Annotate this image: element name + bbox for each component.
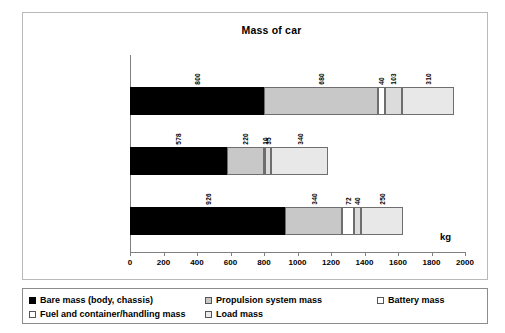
x-axis-unit-label: kg bbox=[440, 231, 451, 242]
x-tick-label: 2000 bbox=[456, 258, 474, 267]
bar-segment-fuel bbox=[385, 87, 402, 115]
x-tick bbox=[398, 252, 399, 256]
chart-screenshot: Mass of car 0200400600800100012001400160… bbox=[0, 0, 505, 333]
plot-area: 0200400600800100012001400160018002000 Da… bbox=[130, 55, 465, 252]
bar-segment-load bbox=[271, 147, 328, 175]
x-tick-label: 1400 bbox=[356, 258, 374, 267]
legend-item-fuel: Fuel and container/handling mass bbox=[29, 309, 205, 319]
data-label: 310 bbox=[425, 73, 432, 85]
bar-segment-load bbox=[402, 87, 454, 115]
data-label: 680 bbox=[318, 73, 325, 85]
data-label: 800 bbox=[194, 73, 201, 85]
chart-title: Mass of car bbox=[0, 24, 505, 36]
legend-swatch-fuel-icon bbox=[29, 311, 36, 318]
bar-segment-bare bbox=[130, 207, 285, 235]
data-label: 926 bbox=[205, 193, 212, 205]
legend-item-bare: Bare mass (body, chassis) bbox=[29, 295, 205, 305]
legend-swatch-load-icon bbox=[205, 311, 212, 318]
chart-legend: Bare mass (body, chassis) Propulsion sys… bbox=[22, 288, 488, 324]
x-tick bbox=[331, 252, 332, 256]
data-label: 35 bbox=[265, 137, 272, 145]
legend-label-prop: Propulsion system mass bbox=[216, 295, 322, 305]
x-tick bbox=[298, 252, 299, 256]
x-tick bbox=[231, 252, 232, 256]
bar-segment-bare bbox=[130, 87, 264, 115]
data-label: 72 bbox=[345, 197, 352, 205]
x-tick-label: 600 bbox=[224, 258, 237, 267]
legend-label-batt: Battery mass bbox=[388, 295, 445, 305]
bar-segment-prop bbox=[227, 147, 264, 175]
data-label: 340 bbox=[311, 193, 318, 205]
x-tick-label: 1200 bbox=[322, 258, 340, 267]
legend-label-fuel: Fuel and container/handling mass bbox=[40, 309, 186, 319]
x-tick-label: 1600 bbox=[389, 258, 407, 267]
data-label: 340 bbox=[297, 133, 304, 145]
bar-segment-prop bbox=[285, 207, 342, 235]
data-label: 103 bbox=[390, 73, 397, 85]
x-tick-label: 400 bbox=[190, 258, 203, 267]
bar-segment-batt bbox=[342, 207, 354, 235]
legend-swatch-prop-icon bbox=[205, 297, 212, 304]
x-tick-label: 0 bbox=[128, 258, 132, 267]
legend-label-bare: Bare mass (body, chassis) bbox=[40, 295, 153, 305]
legend-swatch-bare-icon bbox=[29, 297, 36, 304]
bar-segment-fuel bbox=[354, 207, 361, 235]
x-tick bbox=[264, 252, 265, 256]
legend-row-1: Bare mass (body, chassis) Propulsion sys… bbox=[29, 293, 481, 307]
legend-row-2: Fuel and container/handling mass Load ma… bbox=[29, 307, 481, 321]
data-label: 250 bbox=[379, 193, 386, 205]
data-label: 578 bbox=[175, 133, 182, 145]
x-tick bbox=[365, 252, 366, 256]
bar-segment-prop bbox=[264, 87, 378, 115]
data-label: 40 bbox=[354, 197, 361, 205]
legend-item-batt: Battery mass bbox=[377, 295, 445, 305]
data-label: 40 bbox=[378, 77, 385, 85]
x-tick-label: 1800 bbox=[423, 258, 441, 267]
legend-item-prop: Propulsion system mass bbox=[205, 295, 377, 305]
legend-item-load: Load mass bbox=[205, 309, 263, 319]
x-tick-label: 200 bbox=[157, 258, 170, 267]
legend-swatch-batt-icon bbox=[377, 297, 384, 304]
legend-label-load: Load mass bbox=[216, 309, 263, 319]
bar-segment-load bbox=[361, 207, 403, 235]
x-tick-label: 800 bbox=[257, 258, 270, 267]
x-tick-label: 1000 bbox=[289, 258, 307, 267]
bar-segment-batt bbox=[378, 87, 385, 115]
x-tick bbox=[164, 252, 165, 256]
x-tick bbox=[130, 252, 131, 256]
x-tick bbox=[465, 252, 466, 256]
x-tick bbox=[197, 252, 198, 256]
x-tick bbox=[432, 252, 433, 256]
bar-segment-bare bbox=[130, 147, 227, 175]
data-label: 220 bbox=[242, 133, 249, 145]
